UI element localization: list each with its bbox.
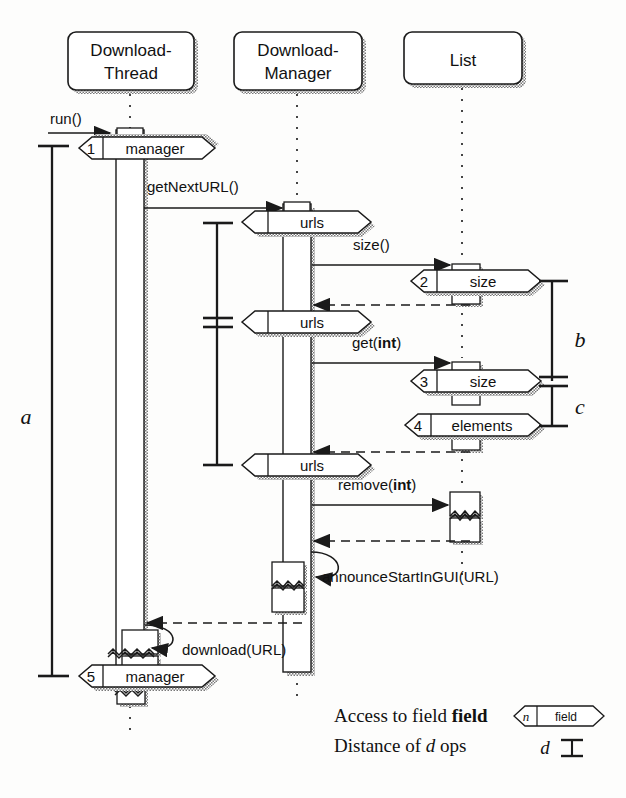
activation-list-remove-lower bbox=[450, 518, 480, 542]
field-access-2[interactable]: urls bbox=[242, 211, 375, 237]
field-access-5-field: size bbox=[470, 373, 497, 390]
field-access-3-number: 2 bbox=[420, 273, 428, 290]
field-access-3[interactable]: 2 size bbox=[411, 270, 545, 296]
field-access-1[interactable]: 1 manager bbox=[79, 134, 219, 159]
message-label-size: size() bbox=[353, 236, 390, 253]
lifeline-title-thread-line2: Thread bbox=[104, 64, 158, 83]
message-label-remove-bold: int bbox=[393, 476, 411, 493]
field-access-1-field: manager bbox=[125, 140, 184, 157]
distance-marker-c-label: c bbox=[575, 394, 585, 419]
field-access-5-number: 3 bbox=[420, 373, 428, 390]
field-access-8-field: manager bbox=[125, 668, 184, 685]
field-access-6-number: 4 bbox=[414, 417, 422, 434]
field-access-1-number: 1 bbox=[87, 140, 95, 157]
message-label-download: download(URL) bbox=[182, 641, 286, 658]
distance-marker-b[interactable]: b bbox=[539, 281, 586, 381]
legend-field-sample-number: n bbox=[523, 709, 530, 724]
lifeline-title-list: List bbox=[450, 51, 477, 70]
field-access-8[interactable]: 5 manager bbox=[79, 665, 219, 691]
activation-manager-announce[interactable] bbox=[272, 562, 307, 615]
legend-field-sample: n field bbox=[514, 706, 604, 726]
activation-manager-announce-lower bbox=[272, 588, 304, 612]
legend-field-text: Access to field field bbox=[334, 705, 488, 726]
sequence-diagram-canvas: run() getNextURL() size() get(int) remov… bbox=[0, 0, 626, 798]
field-access-7[interactable]: urls bbox=[242, 454, 375, 480]
field-access-3-field: size bbox=[470, 273, 497, 290]
message-label-run: run() bbox=[50, 110, 82, 127]
distance-marker-a[interactable]: a bbox=[21, 146, 70, 676]
distance-marker-b-label: b bbox=[575, 327, 586, 352]
field-access-8-number: 5 bbox=[87, 668, 95, 685]
lifeline-title-manager-line1: Download- bbox=[257, 41, 338, 60]
lifeline-title-thread-line1: Download- bbox=[90, 41, 171, 60]
distance-marker-c[interactable]: c bbox=[539, 386, 585, 426]
field-access-4-field: urls bbox=[300, 314, 324, 331]
distance-marker-manager[interactable] bbox=[203, 223, 233, 465]
legend-field-pre: Access to field bbox=[334, 705, 452, 726]
distance-marker-a-label: a bbox=[21, 404, 32, 429]
legend-distance-pre: Distance of bbox=[334, 735, 426, 756]
legend-field-em: field bbox=[452, 705, 488, 726]
field-access-2-field: urls bbox=[300, 214, 324, 231]
field-access-6[interactable]: 4 elements bbox=[405, 414, 545, 440]
field-access-5[interactable]: 3 size bbox=[411, 370, 545, 396]
legend-distance-em: d bbox=[426, 735, 436, 756]
diagram-svg: run() getNextURL() size() get(int) remov… bbox=[0, 0, 626, 798]
legend-field-sample-label: field bbox=[555, 710, 577, 724]
lifeline-title-manager-line2: Manager bbox=[264, 64, 331, 83]
activation-thread[interactable] bbox=[116, 130, 144, 676]
field-access-7-field: urls bbox=[300, 457, 324, 474]
activation-list-remove[interactable] bbox=[450, 492, 483, 545]
message-label-get-bold: int bbox=[378, 334, 396, 351]
legend-distance-post: ops bbox=[435, 735, 466, 756]
legend-distance-sample: d bbox=[540, 737, 583, 758]
field-access-6-field: elements bbox=[452, 417, 513, 434]
message-label-getnexturl: getNextURL() bbox=[147, 178, 239, 195]
legend-distance-sample-number: d bbox=[540, 737, 550, 758]
legend-distance-text: Distance of d ops bbox=[334, 735, 466, 756]
message-label-announce: announceStartInGUI(URL) bbox=[322, 568, 499, 585]
field-access-4[interactable]: urls bbox=[242, 311, 375, 337]
activation-manager-announce-upper bbox=[272, 562, 304, 586]
